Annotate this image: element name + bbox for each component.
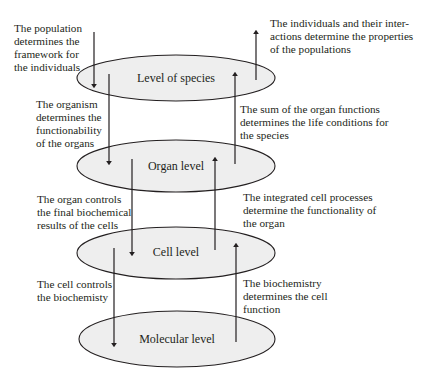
level-organ-label: Organ level — [148, 159, 205, 173]
annotation-organ-controls: The organ controls the final biochemical… — [37, 193, 131, 232]
level-cell: Cell level — [77, 227, 275, 279]
level-cell-label: Cell level — [153, 245, 200, 259]
annotation-organism: The organism determines the functionabil… — [36, 98, 102, 150]
level-species-label: Level of species — [137, 71, 215, 85]
level-organ: Organ level — [77, 140, 275, 192]
annotation-integrated: The integrated cell processes determine … — [243, 191, 376, 230]
level-molecular: Molecular level — [79, 311, 275, 367]
annotation-population: The population determines the framework … — [14, 22, 82, 74]
annotation-organ-sum: The sum of the organ functions determine… — [240, 103, 389, 142]
level-molecular-label: Molecular level — [139, 332, 215, 346]
level-species: Level of species — [77, 55, 275, 101]
annotation-biochemistry: The biochemistry determines the cell fun… — [243, 277, 328, 316]
annotation-cell-controls: The cell controls the biochemisty — [37, 278, 112, 304]
annotation-individuals: The individuals and their inter- actions… — [270, 17, 413, 56]
